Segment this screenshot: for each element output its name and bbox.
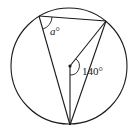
central-angle-label: 140° bbox=[82, 65, 103, 77]
inscribed-angle-label: a° bbox=[50, 25, 60, 37]
radius-to-top-right bbox=[70, 21, 106, 66]
central-angle-arc bbox=[70, 59, 79, 75]
circle-diagram: a° 140° bbox=[0, 0, 135, 131]
chord-top bbox=[39, 16, 106, 21]
center-point bbox=[68, 64, 71, 67]
